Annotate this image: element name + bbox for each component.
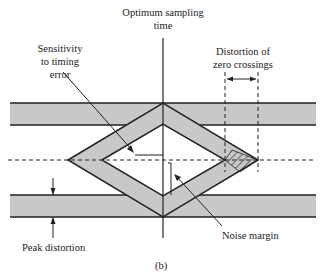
sensitivity-line3: error (30, 68, 90, 81)
sensitivity-line2: to timing (30, 55, 90, 68)
eye-diagram: Optimum sampling time Sensitivity to tim… (0, 0, 326, 278)
caption: (b) (155, 259, 167, 272)
noise-margin-label: Noise margin (222, 229, 279, 242)
distortion-label: Distortion of zero crossings (208, 45, 278, 71)
optimum-sampling-line2: time (118, 19, 208, 32)
optimum-sampling-line1: Optimum sampling (118, 6, 208, 19)
distortion-line2: zero crossings (208, 58, 278, 71)
sensitivity-label: Sensitivity to timing error (30, 42, 90, 81)
optimum-sampling-label: Optimum sampling time (118, 6, 208, 32)
peak-distortion-label: Peak distortion (22, 241, 85, 254)
distortion-line1: Distortion of (208, 45, 278, 58)
sensitivity-line1: Sensitivity (30, 42, 90, 55)
